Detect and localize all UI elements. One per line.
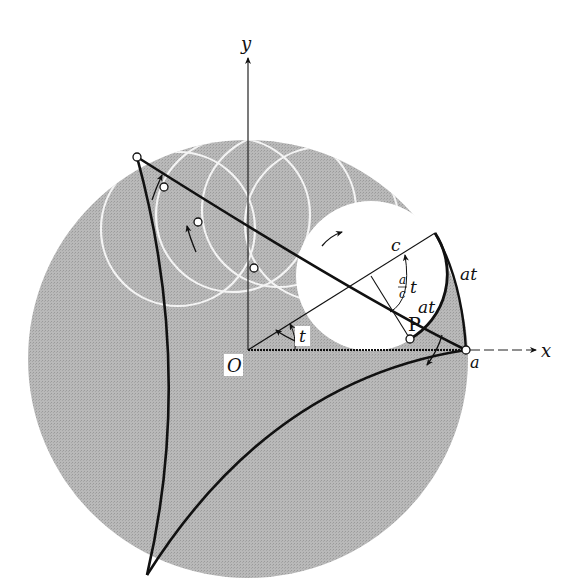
ratio-den: c [399, 287, 406, 301]
origin-label: O [227, 355, 242, 376]
ratio-t: t [410, 277, 417, 297]
point-a [462, 346, 470, 354]
x-axis-label: x [541, 340, 551, 361]
c-label: c [391, 235, 401, 255]
ratio-num: a [399, 273, 406, 287]
deltoid-figure: y x O a t c a c t at at P [0, 0, 579, 585]
diagram-canvas: y x O a t c a c t at at P [0, 0, 579, 585]
P-label: P [408, 313, 421, 335]
y-axis-label: y [240, 33, 252, 54]
a-label: a [470, 353, 480, 372]
point-P [406, 335, 414, 343]
angle-t-label: t [299, 326, 306, 346]
arc-outer-label: at [460, 264, 477, 284]
